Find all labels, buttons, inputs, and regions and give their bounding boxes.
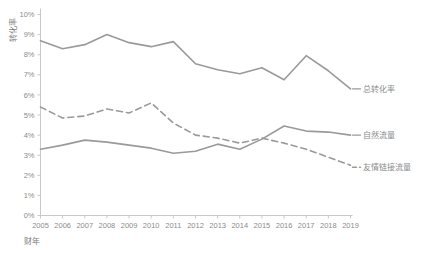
y-tick-label: 2% bbox=[24, 171, 35, 180]
x-axis-title: 财年 bbox=[24, 236, 40, 246]
chart-legend: 总转化率自然流量友情链接流量 bbox=[353, 84, 411, 172]
x-tick-label: 2017 bbox=[298, 221, 315, 230]
x-tick-group: 2005200620072008200920102011201220132014… bbox=[32, 216, 359, 230]
y-tick-label: 8% bbox=[24, 50, 35, 59]
x-tick-label: 2012 bbox=[187, 221, 204, 230]
x-tick-label: 2009 bbox=[121, 221, 138, 230]
x-tick-label: 2006 bbox=[54, 221, 71, 230]
x-tick-label: 2013 bbox=[209, 221, 226, 230]
y-tick-label: 1% bbox=[24, 191, 35, 200]
series-line-2 bbox=[41, 103, 351, 165]
x-tick-label: 2007 bbox=[76, 221, 93, 230]
y-axis-title: 转化率 bbox=[8, 18, 18, 42]
y-tick-label: 7% bbox=[24, 70, 35, 79]
x-tick-label: 2014 bbox=[231, 221, 248, 230]
x-tick-label: 2018 bbox=[320, 221, 337, 230]
x-axis: 2005200620072008200920102011201220132014… bbox=[32, 216, 359, 230]
y-axis: 0%1%2%3%4%5%6%7%8%9%10% bbox=[19, 9, 40, 221]
legend-label-2: 友情链接流量 bbox=[363, 162, 411, 172]
x-tick-label: 2010 bbox=[143, 221, 160, 230]
y-tick-group: 0%1%2%3%4%5%6%7%8%9%10% bbox=[19, 10, 40, 220]
y-tick-label: 4% bbox=[24, 131, 35, 140]
y-tick-label: 5% bbox=[24, 111, 35, 120]
chart-canvas: 转化率 0%1%2%3%4%5%6%7%8%9%10% 200520062007… bbox=[0, 0, 430, 253]
x-tick-label: 2016 bbox=[276, 221, 293, 230]
x-tick-label: 2011 bbox=[165, 221, 181, 230]
x-tick-label: 2015 bbox=[254, 221, 271, 230]
x-tick-label: 2008 bbox=[99, 221, 116, 230]
x-tick-label: 2005 bbox=[32, 221, 49, 230]
series-line-0 bbox=[41, 35, 351, 89]
series-group bbox=[41, 35, 351, 166]
x-axis-title-group: 财年 bbox=[24, 236, 40, 246]
y-tick-label: 9% bbox=[24, 30, 35, 39]
line-chart: 转化率 0%1%2%3%4%5%6%7%8%9%10% 200520062007… bbox=[0, 0, 430, 253]
y-axis-title-group: 转化率 bbox=[8, 18, 18, 42]
x-tick-label: 2019 bbox=[342, 221, 359, 230]
y-tick-label: 10% bbox=[19, 10, 34, 19]
y-tick-label: 0% bbox=[24, 211, 35, 220]
legend-label-1: 自然流量 bbox=[363, 130, 395, 140]
y-tick-label: 6% bbox=[24, 91, 35, 100]
y-tick-label: 3% bbox=[24, 151, 35, 160]
legend-label-0: 总转化率 bbox=[363, 84, 395, 94]
